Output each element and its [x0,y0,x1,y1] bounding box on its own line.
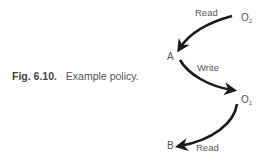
node-b: B [167,140,174,151]
edge-label-write-a-o1: Write [197,62,219,73]
node-o1-base: O [241,94,249,105]
policy-diagram-arrows [0,0,268,161]
node-o2-base: O [241,12,249,23]
node-o1-sub: 1 [249,100,252,106]
edge-label-read-o2-a: Read [195,7,218,18]
edge-label-read-o1-b: Read [196,142,219,153]
node-o2: O2 [241,12,252,24]
arrow-o1-to-b [180,104,237,146]
node-o1: O1 [241,94,252,106]
node-a: A [167,51,174,62]
arrow-o2-to-a [180,16,232,48]
node-o2-sub: 2 [249,18,252,24]
